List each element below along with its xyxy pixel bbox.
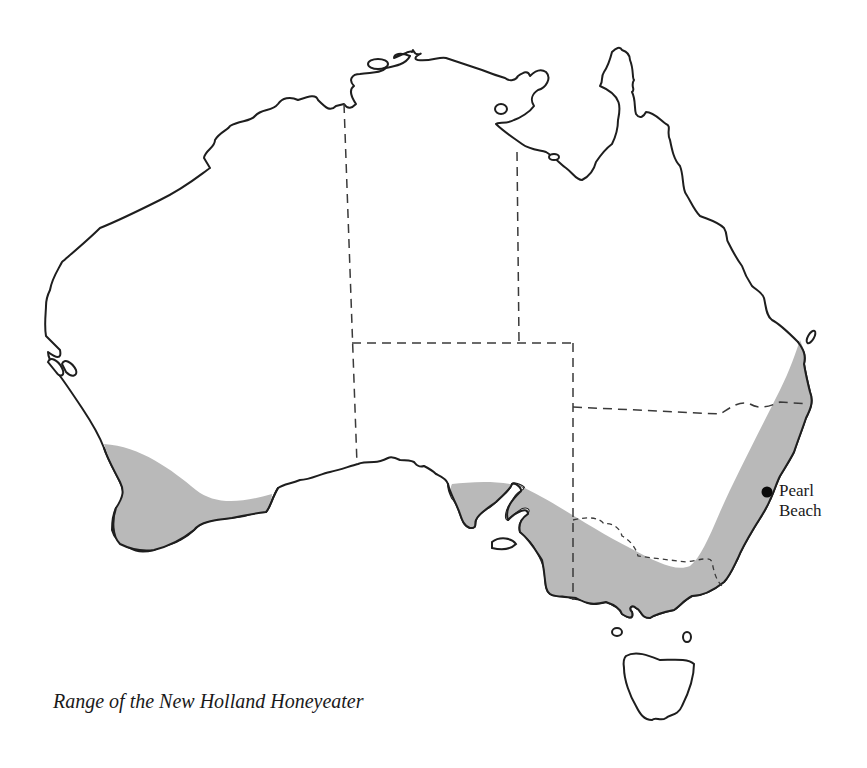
australia-range-map	[0, 0, 867, 768]
island-flinders	[683, 632, 691, 642]
island-kangaroo	[492, 538, 516, 549]
pearl-beach-label: Pearl Beach	[779, 481, 821, 521]
pearl-beach-label-line2: Beach	[779, 501, 821, 521]
island-mornington	[549, 154, 559, 160]
pearl-beach-marker	[762, 487, 773, 498]
island-king	[612, 628, 622, 636]
pearl-beach-label-line1: Pearl	[779, 481, 821, 501]
island-tiwi	[368, 59, 388, 69]
map-caption: Range of the New Holland Honeyeater	[53, 690, 364, 713]
island-tasmania	[624, 653, 694, 720]
island-groote-eylandt	[495, 104, 507, 114]
island-fraser	[805, 329, 817, 344]
